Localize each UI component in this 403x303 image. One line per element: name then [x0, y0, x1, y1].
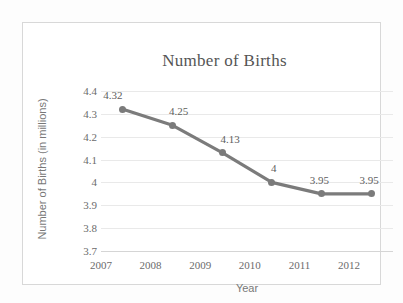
data-point-marker [219, 149, 226, 156]
data-point-marker [169, 122, 176, 129]
y-axis-title: Number of Births (in millions) [36, 64, 48, 274]
data-point-marker [368, 190, 375, 197]
y-tick-label: 4.4 [57, 86, 97, 97]
x-axis-title: Year [101, 282, 393, 294]
y-tick-label: 3.8 [57, 223, 97, 234]
data-point-label: 4 [271, 162, 277, 174]
y-tick-label: 4.2 [57, 132, 97, 143]
data-point-label: 3.95 [310, 174, 329, 186]
y-tick-label: 3.9 [57, 200, 97, 211]
data-point-label: 4.25 [169, 105, 188, 117]
line-series [101, 91, 393, 251]
y-tick-label: 4.3 [57, 109, 97, 120]
chart-frame: Number of Births 4.44.34.24.143.93.83.7 … [22, 22, 381, 285]
data-point-label: 3.95 [359, 174, 378, 186]
chart-title: Number of Births [45, 51, 403, 71]
y-tick-label: 3.7 [57, 246, 97, 257]
chart-screenshot: Number of Births 4.44.34.24.143.93.83.7 … [0, 0, 403, 303]
y-tick-label: 4.1 [57, 155, 97, 166]
data-point-label: 4.32 [103, 89, 122, 101]
x-tick-label: 2012 [319, 259, 379, 271]
y-tick-label: 4 [57, 177, 97, 188]
gridline [101, 251, 393, 252]
plot-area: 4.324.254.1343.953.95 [101, 91, 393, 251]
data-point-label: 4.13 [221, 133, 240, 145]
